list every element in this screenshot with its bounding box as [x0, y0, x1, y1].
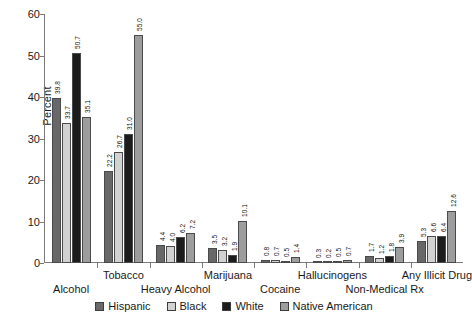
bar-value-label: 0.5 — [283, 248, 290, 257]
bar[interactable] — [281, 261, 290, 263]
x-axis-separator-tick — [411, 263, 412, 268]
bar-wrapper: 1.9 — [228, 14, 237, 263]
x-axis-label-non-medical-rx: Non-Medical Rx — [346, 283, 424, 295]
bar-group: 3.53.21.910.1 — [202, 14, 254, 263]
bar[interactable] — [261, 260, 270, 263]
bar[interactable] — [365, 256, 374, 263]
bar[interactable] — [395, 247, 404, 263]
legend-swatch-icon — [280, 302, 289, 311]
bar[interactable] — [291, 257, 300, 263]
x-axis-label-marijuana: Marijuana — [204, 269, 252, 281]
bar-group: 0.80.70.51.4 — [254, 14, 306, 263]
y-axis-tickmark — [40, 139, 44, 140]
x-axis-separator-tick — [254, 263, 255, 268]
bar-value-label: 3.2 — [220, 236, 227, 245]
bar[interactable] — [437, 236, 446, 263]
bar-value-label: 3.5 — [210, 235, 217, 244]
bar-value-label: 12.6 — [449, 194, 456, 207]
y-axis-tick-0: 0 — [16, 258, 40, 268]
bar[interactable] — [176, 237, 185, 263]
bar[interactable] — [156, 245, 165, 263]
bar[interactable] — [427, 236, 436, 263]
bar[interactable] — [417, 241, 426, 263]
bar-group: 39.833.750.735.1 — [45, 14, 97, 263]
plot-area: 39.833.750.735.122.226.731.055.04.44.06.… — [45, 14, 463, 263]
bar-value-label: 6.2 — [178, 224, 185, 233]
bar-wrapper: 0.5 — [333, 14, 342, 263]
bar-wrapper: 1.4 — [291, 14, 300, 263]
x-axis-label-hallucinogens: Hallucinogens — [298, 269, 367, 281]
bar-wrapper: 6.2 — [176, 14, 185, 263]
bar[interactable] — [447, 211, 456, 263]
bar[interactable] — [333, 261, 342, 263]
bar-wrapper: 4.0 — [166, 14, 175, 263]
bar[interactable] — [271, 260, 280, 263]
bar[interactable] — [82, 117, 91, 263]
bar-value-label: 0.5 — [335, 248, 342, 257]
y-axis-tick-labels: 0102030405060 — [16, 14, 40, 262]
bar[interactable] — [343, 260, 352, 263]
legend-swatch-icon — [167, 302, 176, 311]
bar[interactable] — [375, 258, 384, 263]
bar[interactable] — [124, 134, 133, 263]
bar-value-label: 35.1 — [84, 100, 91, 113]
y-axis-tickmark — [40, 263, 44, 264]
y-axis-tickmark — [40, 14, 44, 15]
y-axis-tick-40: 40 — [16, 92, 40, 102]
bar-value-label: 7.2 — [188, 220, 195, 229]
bar[interactable] — [166, 246, 175, 263]
bar[interactable] — [228, 255, 237, 263]
bar[interactable] — [186, 233, 195, 263]
bar[interactable] — [385, 256, 394, 263]
legend-item[interactable]: Hispanic — [95, 301, 150, 312]
x-axis-label-heavy-alcohol: Heavy Alcohol — [141, 283, 211, 295]
legend-item[interactable]: Native American — [280, 301, 373, 312]
x-axis-separator-tick — [306, 263, 307, 268]
bar-wrapper: 6.4 — [437, 14, 446, 263]
bar[interactable] — [62, 123, 71, 263]
bar[interactable] — [114, 152, 123, 263]
bar-wrapper: 33.7 — [62, 14, 71, 263]
bar-wrapper: 50.7 — [72, 14, 81, 263]
bar-wrapper: 4.4 — [156, 14, 165, 263]
bar-value-label: 22.2 — [106, 154, 113, 167]
legend-label: White — [235, 301, 263, 312]
y-axis-tickmark — [40, 56, 44, 57]
bar[interactable] — [134, 35, 143, 263]
bar-wrapper: 1.2 — [375, 14, 384, 263]
legend-item[interactable]: Black — [167, 301, 207, 312]
bar-group: 5.36.66.412.6 — [411, 14, 463, 263]
bar[interactable] — [323, 261, 332, 263]
bar-value-label: 5.3 — [419, 228, 426, 237]
x-axis-separator-tick — [359, 263, 360, 268]
y-axis-tickmark — [40, 180, 44, 181]
bar[interactable] — [238, 221, 247, 263]
bar-wrapper: 7.2 — [186, 14, 195, 263]
bar-wrapper: 0.8 — [261, 14, 270, 263]
bar-wrapper: 35.1 — [82, 14, 91, 263]
x-axis-label-cocaine: Cocaine — [260, 283, 300, 295]
bar-wrapper: 26.7 — [114, 14, 123, 263]
bar[interactable] — [52, 98, 61, 263]
bar-value-label: 0.7 — [273, 247, 280, 256]
y-axis-tick-10: 10 — [16, 217, 40, 227]
legend-item[interactable]: White — [222, 301, 263, 312]
bar-value-label: 1.8 — [387, 242, 394, 251]
chart-legend: HispanicBlackWhiteNative American — [0, 301, 468, 312]
y-axis-tick-20: 20 — [16, 175, 40, 185]
bar[interactable] — [72, 53, 81, 263]
bar-group: 1.71.21.83.9 — [359, 14, 411, 263]
bar-wrapper: 22.2 — [104, 14, 113, 263]
bar-value-label: 33.7 — [64, 106, 71, 119]
bar-value-label: 26.7 — [116, 135, 123, 148]
bar-wrapper: 31.0 — [124, 14, 133, 263]
y-axis-tickmark — [40, 222, 44, 223]
bar[interactable] — [208, 248, 217, 263]
bar[interactable] — [104, 171, 113, 263]
bar-wrapper: 0.2 — [323, 14, 332, 263]
bar-wrapper: 3.9 — [395, 14, 404, 263]
bar[interactable] — [218, 250, 227, 263]
x-axis-label-any-illicit-drug: Any Illicit Drug — [402, 269, 472, 281]
bar[interactable] — [313, 261, 322, 263]
